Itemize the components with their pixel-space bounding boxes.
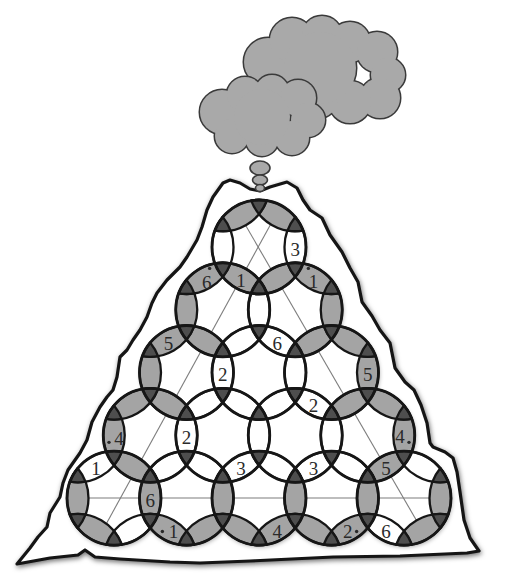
clue-number: 1 — [236, 270, 246, 291]
clue: 3 — [309, 458, 319, 479]
clue: 3 — [291, 239, 301, 260]
clue-number: 2 — [343, 521, 353, 542]
clue-dot — [107, 441, 110, 444]
clue-number: 5 — [164, 333, 174, 354]
clue-number: 6 — [272, 333, 282, 354]
clue-number: 4 — [272, 521, 282, 542]
smoke-clouds — [200, 16, 405, 192]
clue-number: 1 — [91, 458, 101, 479]
clue-number: 6 — [202, 272, 212, 293]
clue-number: 6 — [146, 490, 156, 511]
clue-number: 2 — [218, 364, 228, 385]
clue-number: 3 — [309, 458, 319, 479]
clue: 1 — [307, 267, 318, 292]
clue-number: 3 — [291, 239, 301, 260]
clue-number: 3 — [236, 458, 246, 479]
clue-dot — [161, 530, 164, 533]
clue: 6 — [146, 490, 156, 511]
clue-number: 1 — [169, 521, 179, 542]
clue: 1 — [236, 270, 246, 291]
smoke-bubble — [256, 185, 265, 192]
smoke-bubble — [250, 161, 270, 175]
clue: 5 — [164, 333, 174, 354]
clue: 6 — [272, 333, 282, 354]
clue-number: 6 — [381, 521, 391, 542]
clue-dot — [208, 267, 211, 270]
clue: 2 — [182, 427, 192, 448]
clue-dot — [407, 441, 410, 444]
clue-number: 5 — [381, 458, 391, 479]
clue: 1 — [91, 458, 101, 479]
clue-number: 4 — [395, 426, 405, 447]
clue-number: 2 — [309, 395, 319, 416]
clue-number: 1 — [309, 271, 319, 292]
clue: 2 — [218, 364, 228, 385]
clue-dot — [307, 267, 310, 270]
clue-number: 2 — [182, 427, 192, 448]
clue-dot — [355, 530, 358, 533]
volcano-ring-puzzle-illustration: 316156252424133561426 — [0, 0, 508, 583]
clue: 6 — [381, 521, 391, 542]
clue-number: 4 — [114, 428, 124, 449]
scene-canvas: 316156252424133561426 — [0, 0, 508, 583]
clue: 3 — [236, 458, 246, 479]
clue: 2 — [309, 395, 319, 416]
clue: 5 — [363, 364, 373, 385]
small-cloud — [200, 75, 325, 156]
clue-number: 5 — [363, 364, 373, 385]
clue: 5 — [381, 458, 391, 479]
smoke-bubble — [253, 175, 268, 185]
clue: 4 — [272, 521, 282, 542]
